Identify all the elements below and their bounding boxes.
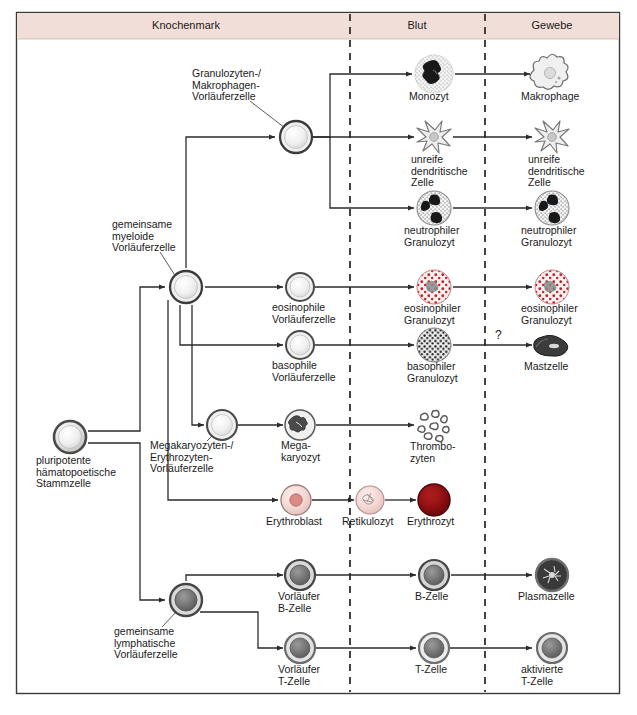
cell-basophiler-granulozyt	[417, 328, 451, 362]
label-lymphoid: gemeinsame lymphatische Vorläuferzelle	[114, 626, 178, 661]
label-myeloid: gemeinsame myeloide Vorläuferzelle	[112, 219, 176, 254]
label-makrophage: Makrophage	[521, 91, 579, 103]
cell-neutrophiler-granulozyt-gewebe	[535, 191, 569, 225]
label-b-zelle: B-Zelle	[415, 591, 448, 603]
cell-eosinophil-progenitor	[286, 273, 314, 301]
cell-erythroblast	[281, 485, 311, 515]
label-idc-tissue: unreife dendritische Zelle	[528, 154, 585, 189]
cell-eosinophiler-granulozyt-blut	[417, 270, 451, 304]
label-eos-blood: eosinophiler Granulozyt	[404, 303, 461, 326]
cell-aktivierte-t-zelle	[537, 633, 567, 663]
mastzelle-question-annotation: ?	[495, 328, 502, 342]
column-header-gewebe: Gewebe	[502, 19, 602, 31]
label-t-zelle: T-Zelle	[415, 664, 447, 676]
label-neutro-blood: neutrophiler Granulozyt	[404, 225, 459, 248]
label-erythrozyt: Erythrozyt	[407, 516, 454, 528]
cell-plasmazelle	[536, 559, 568, 591]
label-neutro-tissue: neutrophiler Granulozyt	[521, 225, 576, 248]
label-idc-blood: unreife dendritische Zelle	[411, 154, 468, 189]
cell-retikulozyt	[356, 486, 384, 514]
cell-vorlaeufer-t-zelle	[285, 633, 315, 663]
label-mk-prog: Megakaryozyten-/ Erythrozyten- Vorläufer…	[150, 440, 233, 475]
label-gm-prog: Granulozyten-/ Makrophagen- Vorläuferzel…	[192, 68, 261, 103]
cell-pluripotent-stem-cell	[54, 421, 86, 453]
cell-granulocyte-macrophage-progenitor	[280, 121, 312, 153]
label-stem: pluripotente hämatopoetische Stammzelle	[36, 455, 116, 490]
cell-common-lymphoid-progenitor	[170, 584, 202, 616]
cell-erythrozyt	[418, 484, 450, 516]
label-plasmazelle: Plasmazelle	[518, 591, 575, 603]
label-mastzelle: Mastzelle	[524, 361, 568, 373]
label-megakaryo: Mega- karyozyt	[281, 440, 320, 463]
cell-monozyt	[415, 55, 453, 93]
cell-basophil-progenitor	[286, 331, 314, 359]
cell-megakaryocyte-erythroid-progenitor	[207, 410, 237, 440]
label-thrombo: Thrombo- zyten	[410, 441, 456, 464]
cell-megakaryozyt	[285, 410, 315, 440]
label-pre-t: Vorläufer T-Zelle	[278, 664, 320, 687]
label-bas-prog: basophile Vorläuferzelle	[272, 360, 336, 383]
label-monozyt: Monozyt	[409, 91, 449, 103]
cell-b-zelle	[419, 560, 449, 590]
cell-t-zelle	[419, 633, 449, 663]
label-erythroblast: Erythroblast	[266, 516, 322, 528]
label-akt-t: aktivierte T-Zelle	[521, 664, 563, 687]
cell-eosinophiler-granulozyt-gewebe	[535, 270, 569, 304]
cell-common-myeloid-progenitor	[170, 271, 202, 303]
column-header-knochenmark: Knochenmark	[86, 19, 286, 31]
label-pre-b: Vorläufer B-Zelle	[278, 591, 320, 614]
column-header-blut: Blut	[367, 19, 467, 31]
cell-neutrophiler-granulozyt-blut	[417, 191, 451, 225]
label-eos-prog: eosinophile Vorläuferzelle	[272, 302, 336, 325]
label-bas-blood: basophiler Granulozyt	[407, 361, 458, 384]
label-retikulozyt: Retikulozyt	[342, 516, 393, 528]
cell-vorlaeufer-b-zelle	[285, 560, 315, 590]
label-eos-tissue: eosinophiler Granulozyt	[521, 303, 578, 326]
